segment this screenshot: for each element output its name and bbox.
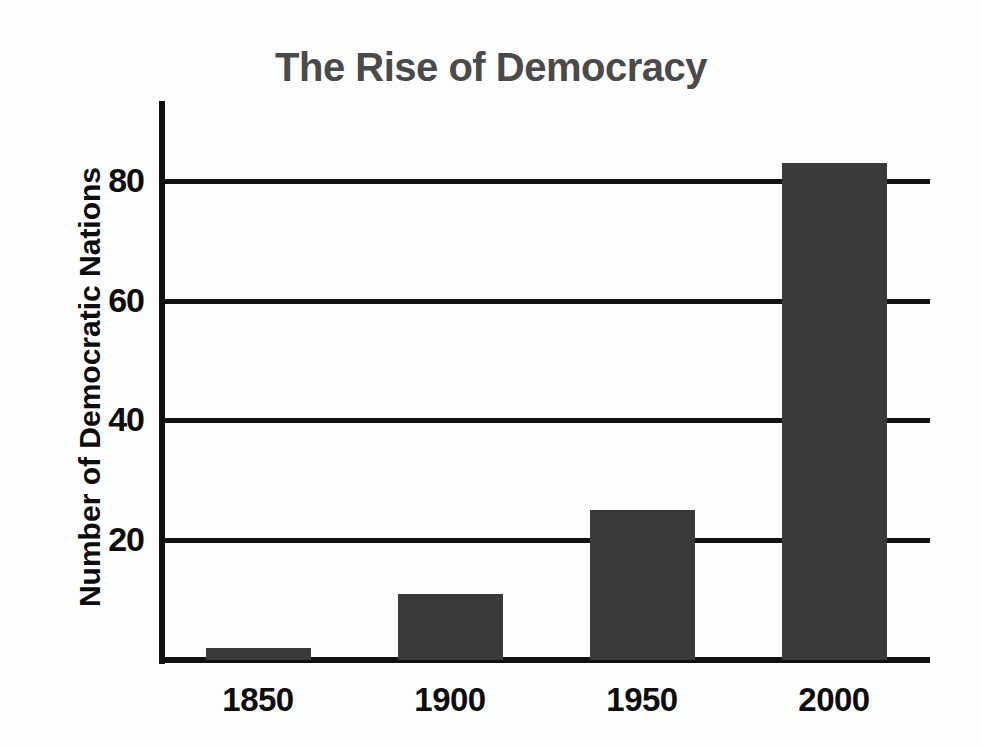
chart-canvas: The Rise of Democracy Number of Democrat… (0, 0, 982, 747)
bar-1850[interactable] (206, 648, 311, 660)
y-axis-line (159, 101, 165, 664)
y-axis-tick-labels: 20406080 (52, 0, 144, 747)
x-tick-label-2000: 2000 (754, 682, 914, 718)
page-title: The Rise of Democracy (0, 44, 982, 90)
bar-1950[interactable] (590, 510, 695, 660)
x-tick-label-1950: 1950 (562, 682, 722, 718)
y-tick-label-20: 20 (72, 522, 144, 556)
x-tick-label-1850: 1850 (178, 682, 338, 718)
y-tick-label-60: 60 (72, 283, 144, 317)
bar-2000[interactable] (782, 163, 887, 660)
y-tick-label-80: 80 (72, 163, 144, 197)
bar-1900[interactable] (398, 594, 503, 660)
y-tick-label-40: 40 (72, 402, 144, 436)
x-tick-label-1900: 1900 (370, 682, 530, 718)
